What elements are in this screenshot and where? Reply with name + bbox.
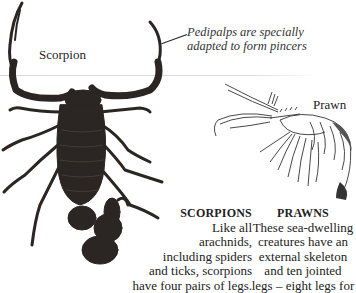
caption-line: Like all [132, 221, 252, 236]
caption-line: creatures have an [250, 235, 356, 250]
caption-line: including spiders [132, 250, 252, 265]
pedipalps-annotation: Pedipalps are specially adapted to form … [187, 25, 356, 53]
prawn-label: Prawn [313, 97, 346, 113]
annotation-line: adapted to form pincers [187, 39, 356, 53]
scorpions-caption: SCORPIONS Like all arachnids, including … [132, 206, 252, 293]
caption-line: legs – eight legs for [250, 279, 356, 293]
caption-line: arachnids, [132, 235, 252, 250]
caption-line: external skeleton [250, 250, 356, 265]
caption-line: and ticks, scorpions [132, 264, 252, 279]
caption-title: PRAWNS [250, 206, 356, 221]
annotation-line: Pedipalps are specially [187, 25, 356, 39]
caption-line: have four pairs of legs. [132, 279, 252, 293]
prawns-caption: PRAWNS These sea-dwelling creatures have… [250, 206, 356, 293]
scorpion-label: Scorpion [39, 47, 86, 63]
caption-title: SCORPIONS [132, 206, 252, 221]
caption-line: and ten jointed [250, 264, 356, 279]
caption-line: These sea-dwelling [250, 221, 356, 236]
